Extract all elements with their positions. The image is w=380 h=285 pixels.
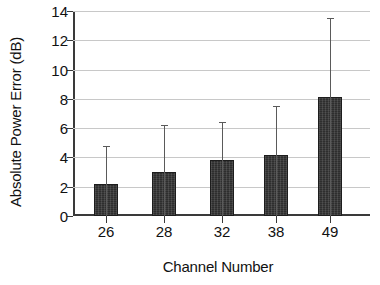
y-tick-label: 6 — [8, 121, 68, 136]
error-bar-cap — [103, 146, 110, 147]
error-bar-cap — [219, 122, 226, 123]
x-tick-mark — [222, 216, 223, 223]
x-tick-mark — [330, 216, 331, 223]
error-bar-line — [222, 122, 223, 216]
y-tick-label: 10 — [8, 62, 68, 77]
y-tick-label: 2 — [8, 179, 68, 194]
x-tick-label: 32 — [192, 223, 252, 240]
y-tick-label: 14 — [8, 4, 68, 19]
x-tick-mark — [276, 216, 277, 223]
x-tick-label: 49 — [300, 223, 360, 240]
error-bar-cap — [327, 18, 334, 19]
error-bar-line — [330, 18, 331, 216]
gridline — [73, 11, 370, 12]
x-axis-title: Channel Number — [66, 258, 370, 275]
x-tick-label: 28 — [134, 223, 194, 240]
y-tick-label: 4 — [8, 150, 68, 165]
gridline — [73, 70, 370, 71]
x-tick-mark — [164, 216, 165, 223]
y-tick-label: 12 — [8, 33, 68, 48]
x-tick-label: 38 — [246, 223, 306, 240]
bar-chart-figure: Absolute Power Error (dB) 02468101214 26… — [0, 0, 380, 285]
error-bar-line — [164, 125, 165, 216]
error-bar-cap — [273, 106, 280, 107]
y-tick-label: 0 — [8, 209, 68, 224]
error-bar-line — [106, 146, 107, 216]
x-tick-label: 26 — [76, 223, 136, 240]
error-bar-cap — [161, 125, 168, 126]
x-tick-mark — [106, 216, 107, 223]
gridline — [73, 40, 370, 41]
error-bar-line — [276, 106, 277, 216]
plot-area: 02468101214 2628323849 — [73, 11, 370, 216]
y-tick-label: 8 — [8, 91, 68, 106]
